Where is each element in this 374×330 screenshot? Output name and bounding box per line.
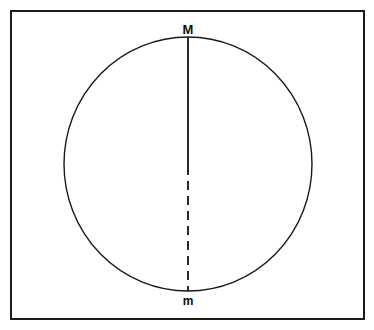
label-top-major: M	[183, 22, 194, 37]
figure-container: M m	[0, 0, 374, 330]
label-bottom-minor: m	[183, 294, 194, 308]
circle-diagram: M m	[0, 0, 374, 330]
